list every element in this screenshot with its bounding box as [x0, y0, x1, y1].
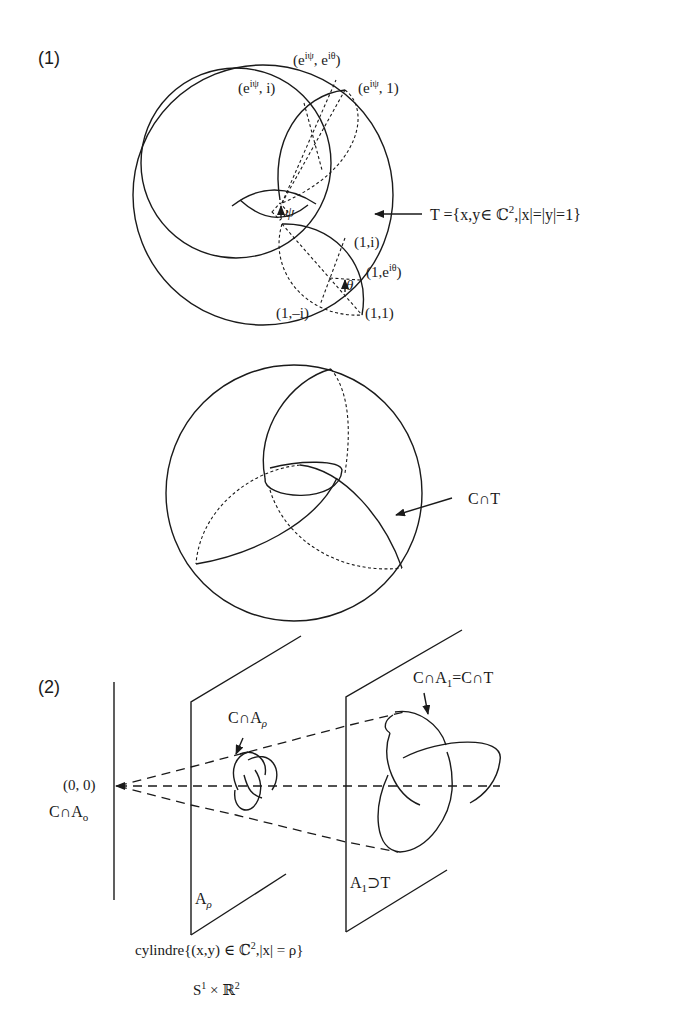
cylinder-definition: cylindre{(x,y) ∈ ℂ2,|x| = ρ} — [135, 940, 304, 959]
curve-arc-3 — [300, 465, 402, 568]
c-cap-arho-label: C∩Aρ — [228, 709, 267, 729]
upper-meridian-back — [282, 90, 358, 203]
curve-dashed-3 — [270, 490, 402, 569]
torus-outer-circle — [133, 65, 393, 325]
ray-psi-i — [304, 103, 322, 170]
ray-one-theta — [330, 278, 360, 280]
c-cap-a0-label: C∩Ao — [49, 803, 89, 823]
part1-label: (1) — [38, 48, 60, 68]
label-eipsi-eitheta: (eiψ, eiθ) — [293, 50, 340, 69]
sphere-outline — [166, 365, 422, 621]
large-trefoil-knot — [378, 711, 500, 852]
label-eipsi-i: (eiψ, i) — [238, 78, 275, 97]
label-eipsi-1: (eiψ, 1) — [358, 78, 399, 97]
a1-supset-t-label: A1⊃T — [350, 874, 390, 894]
sphere-diagram: C∩T — [166, 365, 500, 621]
figure-canvas: (1) ψ θ (eiψ, eiθ) (eiψ, i) (eiψ, 1) — [0, 0, 684, 1036]
curve-arc-2 — [196, 478, 337, 564]
a-rho-label: Aρ — [195, 890, 212, 910]
lower-meridian-back — [279, 224, 362, 315]
torus-inner-circle — [141, 68, 331, 258]
torus-definition: T ={x,y∈ ℂ2,|x|=|y|=1} — [430, 203, 581, 224]
curve-arc-1 — [263, 369, 331, 478]
cylinder-diagram: (0, 0) C∩Ao C∩Aρ C∩A1=C∩T Aρ A1⊃T cylind… — [49, 630, 500, 998]
c-cap-a1-label: C∩A1=C∩T — [413, 669, 494, 689]
label-1-i: (1,i) — [354, 234, 379, 251]
small-trefoil-knot — [233, 752, 276, 810]
product-space-label: S1 × ℝ2 — [193, 980, 240, 998]
arrow-c-cap-a1-icon — [424, 693, 428, 714]
torus-diagram: ψ θ (eiψ, eiθ) (eiψ, i) (eiψ, 1) (1,i) (… — [133, 50, 581, 325]
torus-hole-bottom — [240, 200, 308, 217]
sphere-curve-label: C∩T — [468, 490, 500, 507]
ray-one-one — [282, 224, 362, 315]
arrow-c-cap-arho-icon — [236, 738, 243, 754]
psi-label: ψ — [285, 204, 295, 220]
sphere-pointer-arrow-icon — [396, 498, 452, 515]
curve-dashed-1 — [331, 369, 348, 473]
theta-label: θ — [346, 277, 354, 293]
label-1-minus-i: (1,–i) — [276, 305, 309, 322]
label-1-eitheta: (1,eiθ) — [366, 262, 401, 281]
part2-label: (2) — [38, 677, 60, 697]
origin-label: (0, 0) — [63, 777, 96, 794]
label-1-1: (1,1) — [365, 305, 394, 322]
